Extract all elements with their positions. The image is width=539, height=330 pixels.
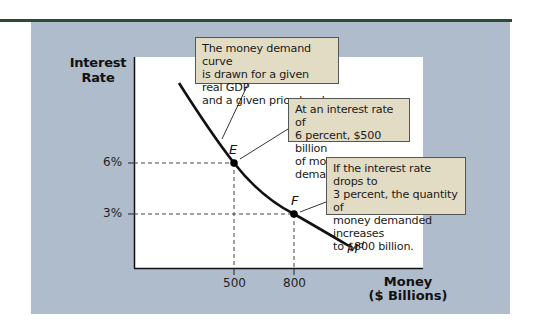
y-tick-label-6: 6% bbox=[103, 155, 122, 169]
point-e bbox=[230, 159, 238, 167]
callout-point-f: If the interest rate drops to 3 percent,… bbox=[326, 157, 466, 215]
callout-point-e: At an interest rate of 6 percent, $500 b… bbox=[288, 98, 410, 142]
callout-bottom-line4: to $800 billion. bbox=[333, 240, 459, 253]
y-axis-title-line2: Rate bbox=[68, 70, 128, 85]
x-axis-title-line1: Money bbox=[368, 275, 448, 289]
x-tick-label-800: 800 bbox=[283, 276, 306, 290]
callout-bottom-line3: money demanded increases bbox=[333, 214, 459, 240]
point-f bbox=[290, 210, 298, 218]
point-e-label: E bbox=[229, 142, 237, 157]
callout-bottom-line2: 3 percent, the quantity of bbox=[333, 188, 459, 214]
y-axis-title-line1: Interest bbox=[68, 55, 128, 70]
callout-middle-line2: 6 percent, $500 billion bbox=[295, 129, 403, 155]
y-tick-label-3: 3% bbox=[103, 206, 122, 220]
callout-top-line2: is drawn for a given real GDP bbox=[202, 68, 332, 94]
callout-middle-line1: At an interest rate of bbox=[295, 103, 403, 129]
callout-top-line1: The money demand curve bbox=[202, 42, 332, 68]
x-tick-label-500: 500 bbox=[223, 276, 246, 290]
callout-curve-conditions: The money demand curve is drawn for a gi… bbox=[195, 37, 339, 84]
callout-bottom-line1: If the interest rate drops to bbox=[333, 162, 459, 188]
y-axis-title: Interest Rate bbox=[68, 55, 128, 85]
x-axis-title: Money ($ Billions) bbox=[368, 275, 448, 303]
point-f-label: F bbox=[291, 193, 298, 208]
x-axis-title-line2: ($ Billions) bbox=[368, 289, 448, 303]
